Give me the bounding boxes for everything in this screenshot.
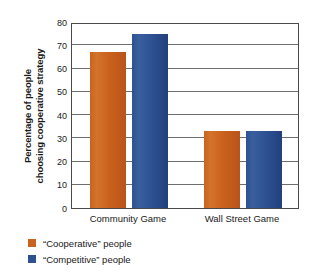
y-tick-label-60: 60 <box>41 65 67 74</box>
y-axis-tick-labels: 80706050403020100 <box>37 23 67 209</box>
x-tick-label-2: Wall Street Game <box>185 212 299 226</box>
x-axis-tick-labels: Community GameWall Street Game <box>71 212 299 228</box>
legend-swatch-icon-cooperative <box>28 239 36 247</box>
bar-chart-figure: Percentage of people choosing cooperativ… <box>0 0 319 280</box>
legend-swatch-icon-competitive <box>28 255 36 263</box>
y-axis-title-line-1: Percentage of people <box>22 69 34 163</box>
y-tick-label-80: 80 <box>41 19 67 28</box>
bar-cooperative-group-1 <box>90 52 126 208</box>
legend-label: “Competitive” people <box>43 254 131 265</box>
plot-area <box>71 23 299 209</box>
y-tick-label-40: 40 <box>41 112 67 121</box>
y-tick-label-10: 10 <box>41 181 67 190</box>
bar-competitive-group-2 <box>246 131 282 208</box>
y-tick-label-30: 30 <box>41 135 67 144</box>
legend-item-cooperative: “Cooperative” people <box>28 236 268 250</box>
chart-legend: “Cooperative” people“Competitive” people <box>28 236 268 268</box>
bar-competitive-group-1 <box>132 34 168 208</box>
bar-cooperative-group-2 <box>204 131 240 208</box>
legend-label: “Cooperative” people <box>43 238 132 249</box>
x-tick-label-1: Community Game <box>71 212 185 226</box>
y-tick-label-0: 0 <box>41 205 67 214</box>
legend-item-competitive: “Competitive” people <box>28 252 268 266</box>
y-tick-label-70: 70 <box>41 42 67 51</box>
gridline-70 <box>72 44 298 45</box>
y-tick-label-50: 50 <box>41 88 67 97</box>
y-tick-label-20: 20 <box>41 158 67 167</box>
